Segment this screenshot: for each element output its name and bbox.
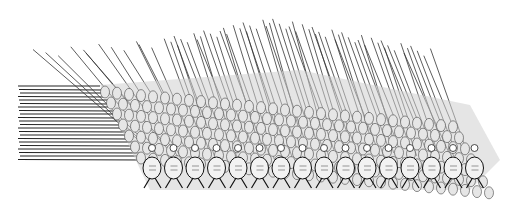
- phalanx-engraving: [0, 0, 518, 218]
